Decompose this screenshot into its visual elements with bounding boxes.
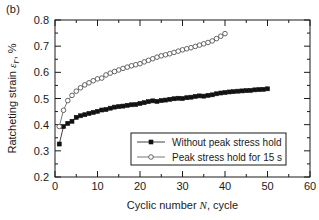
data-point — [210, 93, 214, 97]
data-point — [61, 108, 66, 113]
legend-marker-filled-square — [149, 140, 153, 144]
legend-label: Without peak stress hold — [172, 137, 282, 148]
data-point — [257, 88, 261, 92]
data-point — [249, 88, 253, 92]
data-point — [185, 96, 189, 100]
x-tick-label: 60 — [304, 180, 316, 192]
data-point — [87, 111, 91, 115]
data-point — [108, 106, 112, 110]
data-point — [236, 89, 240, 93]
data-point — [240, 89, 244, 93]
legend-marker-open-circle — [149, 155, 154, 160]
y-tick-label: 0.4 — [34, 119, 49, 131]
y-tick-label: 0.8 — [34, 14, 49, 26]
data-point — [79, 114, 83, 118]
data-point — [215, 92, 219, 96]
data-point — [176, 96, 180, 100]
data-point — [142, 101, 146, 105]
data-point — [181, 97, 185, 101]
data-point — [134, 103, 138, 107]
data-point — [218, 34, 223, 39]
data-point — [78, 85, 83, 90]
data-point — [172, 97, 176, 101]
data-point — [70, 93, 75, 98]
data-point — [206, 93, 210, 97]
data-point — [74, 115, 78, 119]
chart-legend: Without peak stress holdPeak stress hold… — [131, 133, 286, 165]
data-point — [159, 99, 163, 103]
x-tick-label: 20 — [134, 180, 146, 192]
data-point — [147, 100, 151, 104]
x-axis-symbol: N — [199, 199, 208, 211]
data-point — [232, 90, 236, 94]
data-point — [261, 87, 265, 91]
data-point — [74, 89, 79, 94]
data-point — [57, 124, 62, 129]
data-point — [104, 107, 108, 111]
data-point — [244, 89, 248, 93]
y-axis-title: Ratcheting strain εr, % — [6, 43, 21, 153]
data-point — [113, 105, 117, 109]
data-point — [193, 94, 197, 98]
figure-panel-b: (b) 01020304050600.20.30.40.50.60.70.8Cy… — [0, 0, 319, 220]
x-tick-label: 0 — [52, 180, 58, 192]
legend-label: Peak stress hold for 15 s — [172, 152, 282, 163]
data-point — [223, 90, 227, 94]
x-tick-label: 40 — [219, 180, 231, 192]
x-tick-label: 30 — [176, 180, 188, 192]
data-point — [198, 94, 202, 98]
y-tick-label: 0.6 — [34, 66, 49, 78]
data-point — [151, 99, 155, 103]
x-tick-label: 50 — [261, 180, 273, 192]
data-point — [125, 103, 129, 107]
data-point — [227, 90, 231, 94]
y-tick-label: 0.2 — [34, 171, 49, 183]
data-point — [57, 142, 61, 146]
data-point — [121, 104, 125, 108]
data-point — [138, 101, 142, 105]
y-tick-label: 0.7 — [34, 40, 49, 52]
y-axis-title-suffix: , % — [6, 43, 18, 59]
data-point — [100, 108, 104, 112]
data-point — [164, 98, 168, 102]
x-tick-label: 10 — [91, 180, 103, 192]
data-point — [95, 77, 100, 82]
data-point — [83, 113, 87, 117]
data-point — [91, 110, 95, 114]
y-tick-label: 0.3 — [34, 145, 49, 157]
data-point — [70, 119, 74, 123]
data-point — [189, 95, 193, 99]
data-point — [130, 103, 134, 107]
data-point — [96, 109, 100, 113]
y-tick-label: 0.5 — [34, 93, 49, 105]
data-point — [99, 76, 104, 81]
data-point — [223, 31, 228, 36]
x-axis-title: Cyclic number N, cycle — [127, 199, 238, 211]
data-point — [219, 91, 223, 95]
ratcheting-strain-chart: 01020304050600.20.30.40.50.60.70.8Cyclic… — [0, 0, 319, 220]
data-point — [266, 87, 270, 91]
data-point — [168, 97, 172, 101]
data-point — [65, 98, 70, 103]
data-point — [253, 88, 257, 92]
data-point — [66, 121, 70, 125]
data-point — [202, 94, 206, 98]
data-point — [62, 124, 66, 128]
data-point — [155, 99, 159, 103]
data-point — [117, 105, 121, 109]
